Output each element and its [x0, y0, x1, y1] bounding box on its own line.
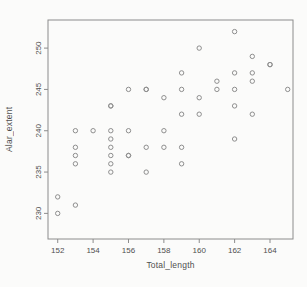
data-point: [232, 71, 236, 75]
x-tick-label: 152: [51, 246, 65, 255]
y-tick-label: 235: [34, 165, 43, 179]
data-point: [109, 145, 113, 149]
data-point: [109, 170, 113, 174]
data-point: [215, 79, 219, 83]
scatter-figure: 152154156158160162164230235240245250 Tot…: [0, 0, 307, 287]
data-point: [232, 29, 236, 33]
data-point: [144, 170, 148, 174]
data-point: [73, 145, 77, 149]
data-point: [179, 112, 183, 116]
data-point: [232, 104, 236, 108]
data-point: [162, 129, 166, 133]
data-point: [215, 87, 219, 91]
data-point: [109, 129, 113, 133]
data-point: [197, 112, 201, 116]
data-point: [250, 71, 254, 75]
x-tick-label: 162: [228, 246, 242, 255]
data-point: [197, 96, 201, 100]
data-point: [232, 87, 236, 91]
x-tick-label: 158: [157, 246, 171, 255]
data-point: [250, 54, 254, 58]
plot-box: [48, 20, 293, 239]
data-point: [109, 104, 113, 108]
data-point: [91, 129, 95, 133]
data-point: [162, 96, 166, 100]
data-point: [126, 129, 130, 133]
data-point: [250, 112, 254, 116]
data-point: [144, 87, 148, 91]
data-point: [179, 162, 183, 166]
y-tick-label: 245: [34, 82, 43, 96]
x-tick-label: 154: [86, 246, 100, 255]
data-point: [144, 145, 148, 149]
data-point: [162, 145, 166, 149]
data-point: [126, 87, 130, 91]
y-tick-label: 230: [34, 206, 43, 220]
data-point: [232, 137, 236, 141]
scatter-plot-canvas: 152154156158160162164230235240245250: [0, 0, 307, 287]
data-point: [250, 79, 254, 83]
x-tick-label: 156: [122, 246, 136, 255]
data-point: [73, 129, 77, 133]
data-point: [268, 62, 272, 66]
x-tick-label: 164: [263, 246, 277, 255]
y-tick-label: 250: [34, 41, 43, 55]
data-point: [179, 145, 183, 149]
data-point: [197, 46, 201, 50]
y-axis-label: Alar_extent: [4, 20, 16, 239]
data-point: [286, 87, 290, 91]
data-point: [109, 137, 113, 141]
x-axis-label: Total_length: [48, 260, 293, 270]
data-point: [179, 87, 183, 91]
x-tick-label: 160: [193, 246, 207, 255]
data-point: [56, 195, 60, 199]
data-point: [109, 162, 113, 166]
data-point: [109, 153, 113, 157]
data-point: [179, 71, 183, 75]
data-point: [73, 162, 77, 166]
data-point: [73, 153, 77, 157]
data-point: [56, 211, 60, 215]
data-point: [73, 203, 77, 207]
y-tick-label: 240: [34, 124, 43, 138]
data-point: [126, 153, 130, 157]
